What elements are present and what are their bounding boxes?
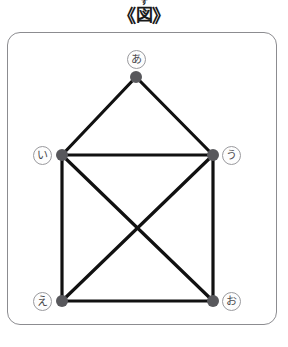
graph-node-label-u: う bbox=[222, 146, 241, 165]
figure-title-inner: 《ず図》 bbox=[118, 1, 170, 29]
graph-node-label-e: え bbox=[33, 292, 52, 311]
graph-node-label-i: い bbox=[33, 146, 52, 165]
figure-title: 《ず図》 bbox=[0, 1, 288, 27]
title-base-text: 図 bbox=[136, 7, 153, 24]
figure-page: 《ず図》 あいうえお bbox=[0, 0, 288, 347]
title-ruby-group: ず図 bbox=[136, 7, 153, 24]
title-ruby-text: ず bbox=[136, 0, 153, 6]
title-bracket-left-icon: 《 bbox=[118, 3, 136, 29]
title-bracket-right-icon: 》 bbox=[152, 3, 170, 29]
graph-node-label-o: お bbox=[222, 292, 241, 311]
graph-node-label-a: あ bbox=[127, 50, 146, 69]
figure-frame bbox=[7, 32, 277, 325]
